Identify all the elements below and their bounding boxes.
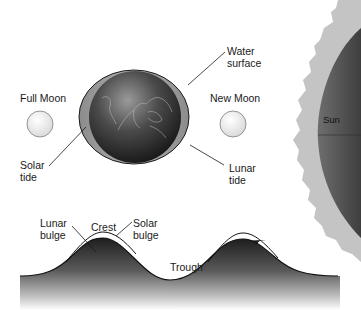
solar-tide-label: Solar tide — [20, 160, 45, 183]
new-moon-label: New Moon — [210, 93, 260, 105]
solar-tide-leader — [49, 127, 86, 166]
solar-bulge-leader — [116, 222, 132, 236]
crest-label: Crest — [91, 222, 116, 234]
full-moon-label: Full Moon — [20, 93, 66, 105]
new-moon — [220, 111, 246, 137]
water-surface-leader — [188, 52, 225, 85]
water-surface-label: Water surface — [227, 46, 261, 69]
earth-globe — [89, 71, 181, 163]
trough-label: Trough — [170, 262, 203, 274]
full-moon — [27, 111, 53, 137]
lunar-tide-label: Lunar tide — [229, 163, 256, 186]
tide-diagram: Full Moon New Moon Sun Water surface Sol… — [0, 0, 361, 310]
sun-label: Sun — [323, 114, 340, 126]
lunar-bulge-label: Lunar bulge — [40, 218, 67, 241]
solar-bulge-label: Solar bulge — [133, 218, 159, 241]
lunar-tide-leader — [190, 145, 224, 165]
